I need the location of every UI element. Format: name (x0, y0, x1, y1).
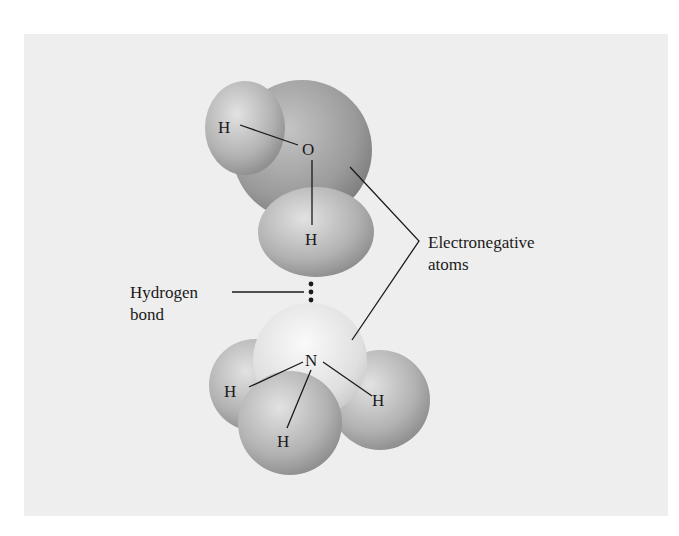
water-h1-label: H (218, 118, 230, 137)
diagram-canvas: H O H N H H H Electronegative atoms Hydr… (0, 0, 679, 536)
hydrogen-bond-label-line2: bond (130, 305, 165, 324)
hydrogen-bond-dots (309, 282, 314, 303)
ammonia-molecule: N H H H (209, 303, 430, 475)
electronegative-label-line1: Electronegative (428, 233, 535, 252)
electronegative-label-line2: atoms (428, 255, 469, 274)
water-h2-label: H (305, 230, 317, 249)
ammonia-h1-label: H (224, 382, 236, 401)
hydrogen-atom-left (205, 81, 285, 175)
ammonia-n-label: N (305, 351, 317, 370)
hydrogen-bond-label-line1: Hydrogen (130, 283, 198, 302)
water-molecule: H O H (205, 80, 374, 277)
water-o-label: O (302, 140, 314, 159)
ammonia-h2-label: H (372, 391, 384, 410)
hydrogen-atom-nfront (238, 371, 342, 475)
ammonia-h3-label: H (277, 432, 289, 451)
